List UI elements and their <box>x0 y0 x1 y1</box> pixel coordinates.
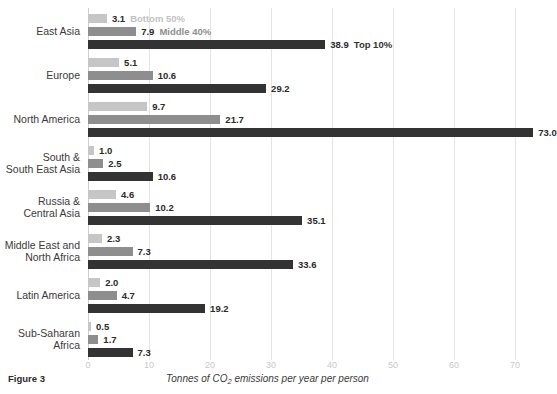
category-label: Middle East and North Africa <box>0 240 80 263</box>
legend-item-bottom50: Bottom 50% <box>130 14 185 23</box>
plot-area: 3.1Bottom 50%7.9Middle 40%38.9Top 10%5.1… <box>88 8 488 360</box>
bar-row: 19.2 <box>88 304 229 313</box>
bar-group: 9.721.773.0 <box>88 102 488 137</box>
bar-middle40[interactable] <box>88 247 133 256</box>
bar-bottom50[interactable] <box>88 234 102 243</box>
bar-group: 2.37.333.6 <box>88 234 488 269</box>
bar-top10[interactable] <box>88 84 266 93</box>
bar-middle40[interactable] <box>88 27 136 36</box>
x-tick-50: 50 <box>388 360 398 370</box>
category-label: Latin America <box>0 290 80 302</box>
bar-row: 0.5 <box>88 322 109 331</box>
gridline-70 <box>515 8 516 360</box>
bar-value-label: 4.6 <box>121 190 134 199</box>
bar-top10[interactable] <box>88 348 133 357</box>
category-axis-labels: East AsiaEuropeNorth AmericaSouth & Sout… <box>0 8 84 360</box>
x-tick-0: 0 <box>85 360 90 370</box>
category-label: Russia & Central Asia <box>0 196 80 219</box>
bar-row: 1.7 <box>88 335 117 344</box>
bar-row: 9.7 <box>88 102 165 111</box>
bar-value-label: 7.3 <box>138 348 151 357</box>
bar-row: 7.3 <box>88 247 151 256</box>
bar-value-label: 10.6 <box>158 172 177 181</box>
bar-value-label: 5.1 <box>124 58 137 67</box>
bar-row: 10.6 <box>88 71 176 80</box>
bar-bottom50[interactable] <box>88 190 116 199</box>
bar-group: 4.610.235.1 <box>88 190 488 225</box>
bar-bottom50[interactable] <box>88 58 119 67</box>
bar-middle40[interactable] <box>88 335 98 344</box>
bar-bottom50[interactable] <box>88 322 91 331</box>
bar-top10[interactable] <box>88 40 325 49</box>
bar-row: 4.6 <box>88 190 134 199</box>
legend-item-middle40: Middle 40% <box>159 27 211 36</box>
bar-value-label: 2.0 <box>105 278 118 287</box>
bar-row: 7.9Middle 40% <box>88 27 211 36</box>
bar-group: 2.04.719.2 <box>88 278 488 313</box>
bar-top10[interactable] <box>88 304 205 313</box>
bar-row: 21.7 <box>88 115 244 124</box>
bar-value-label: 1.0 <box>99 146 112 155</box>
legend-item-top10: Top 10% <box>354 40 392 49</box>
bar-row: 10.6 <box>88 172 176 181</box>
bar-value-label: 4.7 <box>122 291 135 300</box>
bar-value-label: 1.7 <box>103 335 116 344</box>
bar-value-label: 2.3 <box>107 234 120 243</box>
category-label: South & South East Asia <box>0 152 80 175</box>
bar-value-label: 9.7 <box>152 102 165 111</box>
bar-value-label: 33.6 <box>298 260 317 269</box>
bar-value-label: 38.9 <box>330 40 349 49</box>
x-tick-70: 70 <box>510 360 520 370</box>
category-label: Sub-Saharan Africa <box>0 328 80 351</box>
bar-value-label: 19.2 <box>210 304 229 313</box>
bar-value-label: 35.1 <box>307 216 326 225</box>
bar-bottom50[interactable] <box>88 146 94 155</box>
bar-value-label: 7.3 <box>138 247 151 256</box>
bar-row: 38.9Top 10% <box>88 40 392 49</box>
bar-middle40[interactable] <box>88 291 117 300</box>
bar-top10[interactable] <box>88 260 293 269</box>
bar-value-label: 73.0 <box>538 128 557 137</box>
bar-group: 5.110.629.2 <box>88 58 488 93</box>
bar-group: 1.02.510.6 <box>88 146 488 181</box>
bar-value-label: 0.5 <box>96 322 109 331</box>
x-tick-20: 20 <box>205 360 215 370</box>
bar-bottom50[interactable] <box>88 102 147 111</box>
bar-row: 2.3 <box>88 234 120 243</box>
bar-group: 0.51.77.3 <box>88 322 488 357</box>
bar-middle40[interactable] <box>88 159 103 168</box>
bar-middle40[interactable] <box>88 203 150 212</box>
bar-row: 3.1Bottom 50% <box>88 14 185 23</box>
bar-middle40[interactable] <box>88 71 153 80</box>
bar-row: 5.1 <box>88 58 137 67</box>
bar-value-label: 2.5 <box>108 159 121 168</box>
bar-top10[interactable] <box>88 172 153 181</box>
bar-group: 3.1Bottom 50%7.9Middle 40%38.9Top 10% <box>88 14 488 49</box>
bar-value-label: 10.2 <box>155 203 174 212</box>
bar-row: 2.0 <box>88 278 118 287</box>
bar-top10[interactable] <box>88 216 302 225</box>
bar-row: 1.0 <box>88 146 112 155</box>
category-label: Europe <box>0 70 80 82</box>
category-label: North America <box>0 114 80 126</box>
bar-top10[interactable] <box>88 128 533 137</box>
bar-groups: 3.1Bottom 50%7.9Middle 40%38.9Top 10%5.1… <box>88 8 488 360</box>
bar-value-label: 7.9 <box>141 27 154 36</box>
bar-row: 10.2 <box>88 203 174 212</box>
bar-middle40[interactable] <box>88 115 220 124</box>
bar-row: 7.3 <box>88 348 151 357</box>
bar-bottom50[interactable] <box>88 14 107 23</box>
x-tick-30: 30 <box>266 360 276 370</box>
bar-value-label: 3.1 <box>112 14 125 23</box>
axis-caption-suffix: emissions per year per person <box>232 373 369 384</box>
axis-caption-prefix: Tonnes of CO <box>166 373 227 384</box>
bar-bottom50[interactable] <box>88 278 100 287</box>
x-tick-40: 40 <box>327 360 337 370</box>
axis-caption: Tonnes of CO2 emissions per year per per… <box>0 373 535 386</box>
bar-row: 2.5 <box>88 159 121 168</box>
bar-row: 35.1 <box>88 216 326 225</box>
x-tick-60: 60 <box>449 360 459 370</box>
bar-row: 33.6 <box>88 260 316 269</box>
bar-row: 73.0 <box>88 128 557 137</box>
